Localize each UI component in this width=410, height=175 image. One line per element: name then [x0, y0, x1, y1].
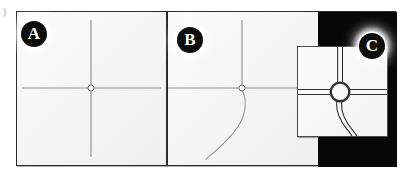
figure-frame: [16, 11, 396, 166]
panel-c-roundabout-diagram: [298, 47, 387, 136]
road-curved-slip: [206, 89, 245, 159]
approach-east: [350, 90, 387, 95]
panel-label-c: C: [359, 33, 385, 59]
panel-label-a: A: [21, 21, 47, 47]
approach-west: [298, 90, 330, 95]
roundabout-ring: [331, 83, 350, 102]
approach-north: [338, 47, 343, 84]
junction-node: [239, 85, 245, 91]
junction-node: [88, 85, 94, 91]
panel-c-inset: [297, 46, 388, 137]
approach-south-slip: [337, 100, 358, 136]
panel-label-b: B: [177, 27, 203, 53]
watermark-artifact: ❵: [1, 6, 13, 18]
figure-root: ❵: [0, 0, 410, 175]
